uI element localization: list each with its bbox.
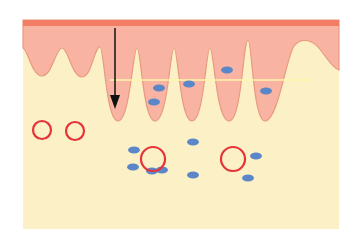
- blue-cell-dot: [260, 88, 272, 95]
- blue-cell-dot: [187, 139, 199, 146]
- blue-cell-dot: [221, 67, 233, 74]
- blue-cell-dot: [148, 99, 160, 106]
- blue-cell-dot: [250, 153, 262, 160]
- blue-cell-dot: [127, 164, 139, 171]
- blue-cell-dot: [128, 147, 140, 154]
- top-band: [23, 20, 339, 26]
- blue-cell-dot: [153, 85, 165, 92]
- blue-cell-dot: [242, 175, 254, 182]
- blue-cell-dot: [183, 81, 195, 88]
- tissue-diagram: [0, 0, 358, 243]
- blue-cell-dot: [187, 172, 199, 179]
